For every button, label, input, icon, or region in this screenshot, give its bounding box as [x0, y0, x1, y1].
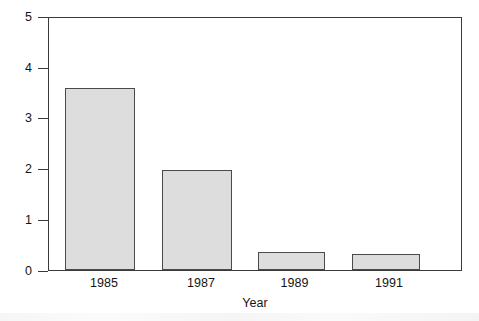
- y-tick-mark: [38, 169, 48, 170]
- y-tick-mark: [38, 118, 48, 119]
- bar-1985: [65, 88, 135, 270]
- y-tick-label: 2: [6, 162, 32, 176]
- x-axis-title: Year: [48, 296, 462, 310]
- y-tick-label: 5: [6, 10, 32, 24]
- x-tick-label-1987: 1987: [166, 276, 236, 290]
- x-tick-label-1989: 1989: [261, 276, 328, 290]
- y-tick-mark: [38, 220, 48, 221]
- bar-1991: [352, 254, 420, 270]
- y-tick-mark: [38, 68, 48, 69]
- y-tick-label: 4: [6, 61, 32, 75]
- x-tick-label-1991: 1991: [355, 276, 423, 290]
- plot-area: [48, 17, 462, 271]
- y-tick-label: 0: [6, 264, 32, 278]
- bar-1987: [162, 170, 232, 270]
- y-tick-mark: [38, 271, 48, 272]
- y-tick-label: 3: [6, 111, 32, 125]
- y-tick-mark: [38, 17, 48, 18]
- scan-artifact: [0, 313, 479, 321]
- x-tick-label-1985: 1985: [69, 276, 139, 290]
- bar-1989: [258, 252, 325, 270]
- bar-chart-figure: Solution waste, Mg 5 4 3 2 1 0 1985 1987…: [0, 0, 479, 321]
- y-tick-label: 1: [6, 213, 32, 227]
